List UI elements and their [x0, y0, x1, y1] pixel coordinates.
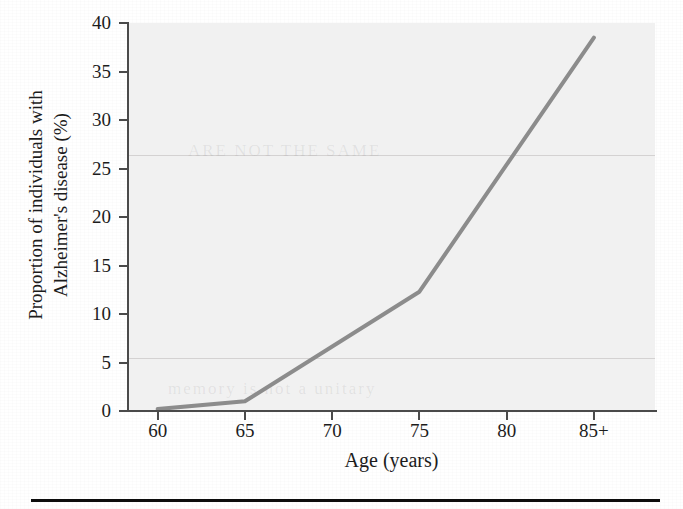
y-axis-tick-label: 10 [79, 304, 111, 323]
x-axis-title: Age (years) [128, 449, 655, 471]
x-axis-tick-label: 85+ [579, 421, 609, 440]
x-axis-tick-label: 80 [497, 421, 516, 440]
y-axis-tick [119, 119, 128, 121]
y-axis-tick [119, 313, 128, 315]
y-axis-tick-label: 25 [79, 159, 111, 178]
x-axis-tick [244, 411, 246, 420]
x-axis-tick [157, 411, 159, 420]
y-axis-tick [119, 168, 128, 170]
x-axis-tick-label: 65 [235, 421, 254, 440]
y-axis-title-line-1: Proportion of individuals with [23, 40, 48, 370]
x-axis-tick-label: 70 [323, 421, 342, 440]
y-axis-tick [119, 22, 128, 24]
y-axis-tick [119, 216, 128, 218]
y-axis-tick-label: 15 [79, 256, 111, 275]
data-series-line [158, 38, 594, 410]
x-axis-tick-label: 60 [148, 421, 167, 440]
y-axis-tick [119, 410, 128, 412]
plot-svg [128, 23, 655, 411]
x-axis-tick-label: 75 [410, 421, 429, 440]
y-axis-title: Proportion of individuals with Alzheimer… [23, 40, 73, 370]
y-axis-tick-label: 40 [79, 13, 111, 32]
y-axis-tick [119, 265, 128, 267]
y-axis-tick-label: 30 [79, 110, 111, 129]
x-axis-tick [593, 411, 595, 420]
figure-container: ARE NOT THE SAME memory is not a unitary… [0, 0, 683, 509]
plot-area: ARE NOT THE SAME memory is not a unitary [128, 23, 655, 411]
x-axis-tick [506, 411, 508, 420]
y-axis-tick-label: 35 [79, 62, 111, 81]
y-axis-tick-label: 0 [79, 401, 111, 420]
y-axis-tick-label: 5 [79, 353, 111, 372]
x-axis-tick [331, 411, 333, 420]
y-axis-title-line-2: Alzheimer's disease (%) [48, 40, 73, 370]
y-axis-tick [119, 362, 128, 364]
y-axis-tick [119, 71, 128, 73]
y-axis-tick-label: 20 [79, 207, 111, 226]
x-axis-line [127, 410, 657, 412]
x-axis-tick [418, 411, 420, 420]
bottom-horizontal-rule [31, 499, 660, 502]
